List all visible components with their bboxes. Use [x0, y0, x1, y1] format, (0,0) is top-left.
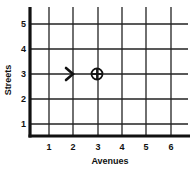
y-tick-5: 5	[21, 20, 26, 29]
x-tick-1: 1	[46, 143, 51, 152]
x-tick-3: 3	[95, 143, 100, 152]
x-tick-5: 5	[143, 143, 148, 152]
y-tick-3: 3	[21, 70, 26, 79]
y-tick-4: 4	[21, 45, 26, 54]
target-circle-marker	[92, 69, 103, 80]
y-axis-label: Streets	[3, 65, 13, 96]
x-axis-label: Avenues	[91, 156, 128, 166]
x-tick-4: 4	[119, 143, 124, 152]
y-tick-1: 1	[21, 120, 26, 129]
y-tick-2: 2	[21, 95, 26, 104]
axes	[29, 7, 191, 138]
grid-lines	[30, 7, 188, 136]
x-tick-2: 2	[70, 143, 75, 152]
x-tick-6: 6	[168, 143, 173, 152]
